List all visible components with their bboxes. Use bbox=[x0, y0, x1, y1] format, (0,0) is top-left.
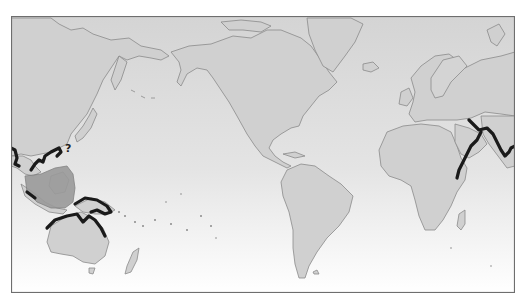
uncertain-range-marker: ? bbox=[65, 142, 71, 155]
world-map: ? bbox=[11, 16, 515, 293]
